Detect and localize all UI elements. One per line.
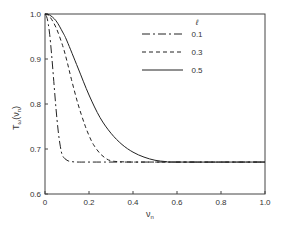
plot-frame — [45, 14, 265, 194]
x-tick-label: 0.6 — [171, 198, 183, 207]
svg-text:νn: νn — [146, 209, 154, 220]
y-tick-label: 0.7 — [30, 145, 42, 154]
plot-border — [45, 14, 265, 194]
x-axis-label: νn — [146, 209, 154, 220]
curve-l-0.1 — [45, 14, 265, 162]
x-tick-label: 0.2 — [83, 198, 95, 207]
curve-l-0.5 — [45, 14, 265, 162]
x-tick-label: 0.8 — [215, 198, 227, 207]
x-tick-label: 1.0 — [259, 198, 271, 207]
chart: 0.60.70.80.91.0 00.20.40.60.81.0 ℓ0.10.3… — [0, 0, 282, 227]
y-tick-label: 0.8 — [30, 100, 42, 109]
y-axis-label: Tω(νn) — [11, 106, 22, 130]
x-tick-label: 0.4 — [127, 198, 139, 207]
legend-label: 0.1 — [191, 30, 203, 39]
x-tick-label: 0 — [43, 198, 48, 207]
x-axis-ticks: 00.20.40.60.81.0 — [43, 191, 271, 207]
curve-l-0.3 — [45, 14, 265, 162]
legend: ℓ0.10.30.5 — [142, 18, 203, 75]
legend-title: ℓ — [195, 18, 199, 27]
svg-text:Tω(νn): Tω(νn) — [11, 106, 22, 130]
legend-label: 0.3 — [191, 48, 203, 57]
y-tick-label: 1.0 — [30, 10, 42, 19]
y-tick-label: 0.6 — [30, 190, 42, 199]
legend-label: 0.5 — [191, 66, 203, 75]
curves — [45, 14, 265, 162]
y-tick-label: 0.9 — [30, 55, 42, 64]
